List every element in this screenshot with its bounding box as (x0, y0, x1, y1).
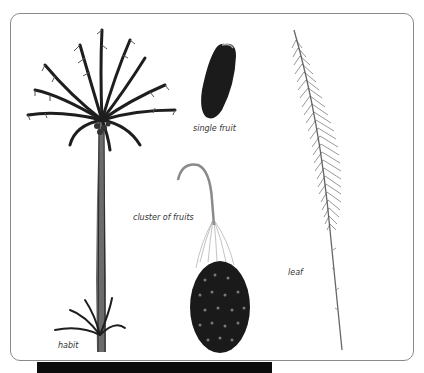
leaf-icon (292, 30, 342, 350)
single-fruit-icon (201, 44, 236, 119)
fruit-cluster-icon (178, 165, 250, 353)
leaf-label: leaf (288, 268, 303, 277)
palm-tree-icon (28, 30, 175, 352)
single-fruit-label: single fruit (193, 124, 236, 133)
habit-label: habit (58, 341, 78, 350)
caption-bar (37, 362, 272, 373)
cluster-of-fruits-label: cluster of fruits (133, 213, 194, 222)
date-palm-illustration (0, 0, 424, 373)
